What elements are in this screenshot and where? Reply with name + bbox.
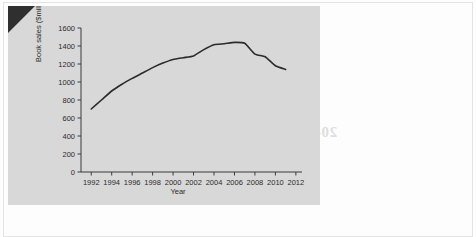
y-axis: 02004006008001000120014001600	[58, 24, 81, 177]
x-tick-label: 2010	[267, 178, 284, 187]
chart-figure-panel: 02004006008001000120014001600 1992199419…	[8, 6, 320, 205]
line-chart-plot: 02004006008001000120014001600 1992199419…	[8, 6, 320, 205]
y-tick-label: 400	[62, 132, 75, 141]
x-tick-label: 2002	[185, 178, 202, 187]
x-tick-label: 1992	[83, 178, 100, 187]
y-axis-title: Book sales ($millions)	[34, 6, 43, 62]
scanned-page: then you can then make a 100 sales from …	[0, 0, 476, 224]
y-tick-label: 0	[71, 168, 75, 177]
x-tick-label: 2012	[288, 178, 305, 187]
y-tick-label: 1600	[58, 24, 75, 33]
x-tick-label: 2000	[165, 178, 182, 187]
x-tick-label: 1996	[124, 178, 141, 187]
y-tick-label: 1200	[58, 60, 75, 69]
data-series-line	[91, 42, 285, 109]
x-tick-label: 2004	[206, 178, 223, 187]
x-tick-label: 1994	[103, 178, 120, 187]
x-tick-label: 2008	[247, 178, 264, 187]
x-tick-label: 2006	[226, 178, 243, 187]
y-tick-label: 800	[62, 96, 75, 105]
x-tick-label: 1998	[144, 178, 161, 187]
y-tick-label: 1400	[58, 42, 75, 51]
y-tick-label: 200	[62, 150, 75, 159]
y-tick-label: 600	[62, 114, 75, 123]
x-axis-title: Year	[8, 187, 320, 196]
x-axis: 1992199419961998200020022004200620082010…	[81, 172, 304, 187]
y-tick-label: 1000	[58, 78, 75, 87]
